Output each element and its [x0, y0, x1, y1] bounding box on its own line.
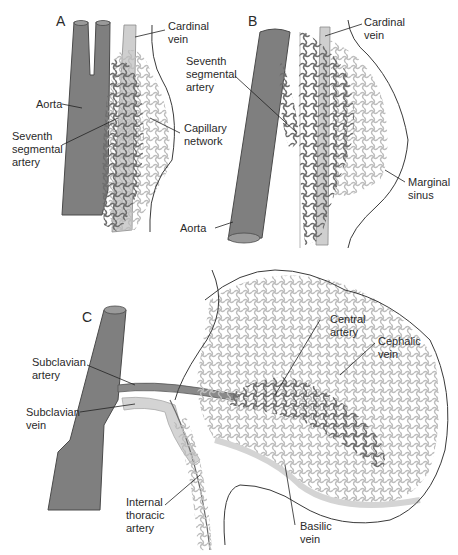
panel-a-label: A: [56, 13, 66, 29]
label-marginal-sinus-b-2: sinus: [408, 189, 434, 201]
label-seventh-segmental-artery-a-2: segmental: [12, 143, 63, 155]
label-cephalic-vein-c: Cephalic: [378, 335, 421, 347]
label-seventh-segmental-artery-b-2: segmental: [186, 68, 237, 80]
label-subclavian-artery-c-2: artery: [32, 369, 61, 381]
panel-b-label: B: [248, 13, 257, 29]
label-subclavian-vein-c: Subclavian: [26, 406, 80, 418]
label-cephalic-vein-c-2: vein: [378, 348, 398, 360]
label-cardinal-vein-a-2: vein: [168, 33, 188, 45]
label-aorta-b: Aorta: [180, 222, 207, 234]
label-capillary-network-a-2: network: [184, 135, 223, 147]
label-aorta-a: Aorta: [36, 98, 63, 110]
label-seventh-segmental-artery-a: Seventh: [12, 130, 52, 142]
aorta-shape-b: [228, 29, 290, 240]
label-cardinal-vein-b: Cardinal: [364, 16, 405, 28]
label-central-artery-c-2: artery: [330, 326, 359, 338]
label-cardinal-vein-a: Cardinal: [168, 20, 209, 32]
panel-a: A Cardinal vein Aorta Seventh segmental …: [12, 13, 227, 232]
label-subclavian-vein-c-2: vein: [26, 419, 46, 431]
label-seventh-segmental-artery-b-3: artery: [186, 81, 215, 93]
label-internal-thoracic-artery-c-2: thoracic: [126, 509, 165, 521]
label-basilic-vein-c: Basilic: [300, 520, 332, 532]
label-subclavian-artery-c: Subclavian: [32, 356, 86, 368]
label-capillary-network-a: Capillary: [184, 122, 227, 134]
panel-c: C Central artery Cephalic vein Subclavia…: [26, 270, 448, 550]
label-internal-thoracic-artery-c: Internal: [126, 496, 163, 508]
panel-c-label: C: [82, 309, 92, 325]
label-seventh-segmental-artery-b: Seventh: [186, 55, 226, 67]
label-cardinal-vein-b-2: vein: [364, 29, 384, 41]
label-basilic-vein-c-2: vein: [300, 533, 320, 545]
label-internal-thoracic-artery-c-3: artery: [126, 522, 155, 534]
label-seventh-segmental-artery-a-3: artery: [12, 156, 41, 168]
label-marginal-sinus-b: Marginal: [408, 176, 450, 188]
label-central-artery-c: Central: [330, 313, 365, 325]
vascular-development-diagram: A Cardinal vein Aorta Seventh segmental …: [0, 0, 458, 555]
